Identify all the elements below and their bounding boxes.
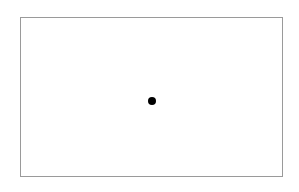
figure-canvas bbox=[0, 0, 299, 192]
plot-frame bbox=[20, 17, 283, 177]
scatter-point-marker bbox=[148, 97, 156, 105]
